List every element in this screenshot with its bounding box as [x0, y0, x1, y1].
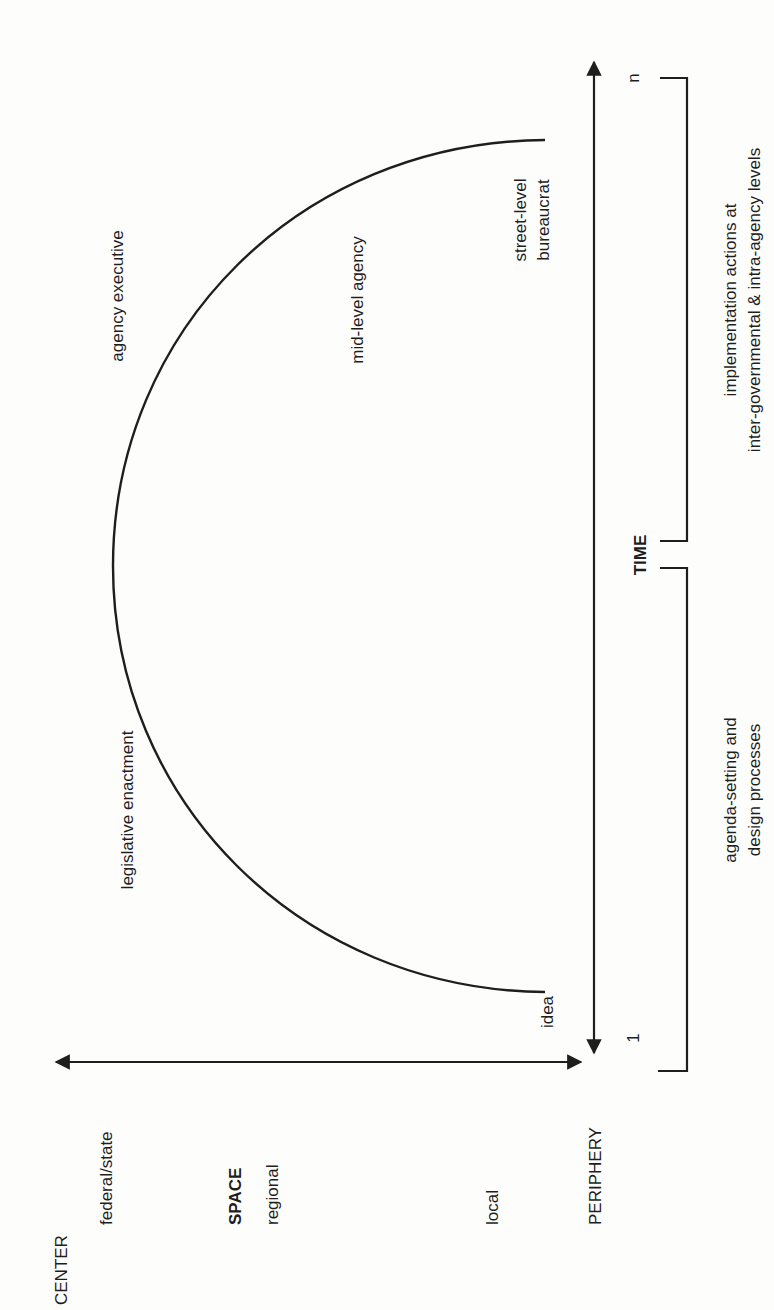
implementation-arc [113, 140, 545, 992]
federal-state-label: federal/state [97, 1131, 116, 1225]
diagram-canvas: CENTER federal/state SPACE regional loca… [0, 0, 774, 1310]
legislative-enactment-label: legislative enactment [118, 730, 137, 889]
implementation-phase-line1: implementation actions at [721, 203, 740, 396]
implementation-phase-line2: inter-governmental & intra-agency levels [745, 148, 764, 452]
time-label: TIME [631, 535, 650, 576]
agenda-phase-bracket [658, 568, 687, 1071]
space-label: SPACE [226, 1168, 245, 1225]
local-label: local [483, 1190, 502, 1225]
agenda-phase-line1: agenda-setting and [721, 717, 740, 863]
periphery-label: PERIPHERY [586, 1127, 605, 1225]
agenda-phase-line2: design processes [745, 724, 764, 856]
time-start-label: 1 [624, 1033, 643, 1042]
idea-label: idea [538, 995, 557, 1028]
center-label: CENTER [52, 1235, 71, 1305]
street-level-label: street-level [511, 178, 530, 261]
agency-executive-label: agency executive [108, 230, 127, 361]
implementation-phase-bracket [660, 78, 687, 541]
policy-implementation-diagram: CENTER federal/state SPACE regional loca… [0, 0, 774, 1310]
time-end-label: n [624, 73, 643, 82]
mid-level-agency-label: mid-level agency [348, 236, 367, 364]
bureaucrat-label: bureaucrat [534, 179, 553, 261]
regional-label: regional [263, 1165, 282, 1226]
